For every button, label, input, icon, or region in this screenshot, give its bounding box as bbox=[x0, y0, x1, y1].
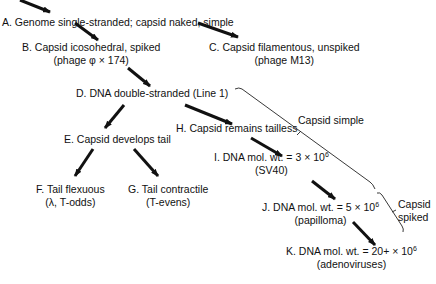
node-c: C. Capsid filamentous, unspiked (phage M… bbox=[209, 41, 360, 67]
node-g: G. Tail contractile (T-evens) bbox=[128, 183, 208, 209]
arrow-d-e bbox=[105, 105, 124, 128]
arrow-e-f bbox=[75, 149, 93, 176]
arrow-e-g bbox=[134, 149, 158, 176]
arrow-entry-a bbox=[20, 0, 50, 12]
node-i: I. DNA mol. wt. = 3 × 106 (SV40) bbox=[214, 151, 329, 177]
node-h: H. Capsid remains tailless bbox=[176, 122, 297, 135]
node-e: E. Capsid develops tail bbox=[64, 133, 171, 146]
bracket-tick-simple bbox=[297, 131, 301, 135]
node-j: J. DNA mol. wt. = 5 × 106 (papilloma) bbox=[262, 201, 379, 227]
node-d: D. DNA double-stranded (Line 1) bbox=[76, 87, 228, 100]
arrow-b-d bbox=[128, 68, 150, 86]
bracket-label-capsid-spiked: Capsid spiked bbox=[398, 198, 431, 224]
node-k: K. DNA mol. wt. = 20+ × 106 (adenoviruse… bbox=[286, 245, 417, 271]
node-a: A. Genome single-stranded; capsid naked,… bbox=[2, 16, 234, 29]
node-f: F. Tail flexuous (λ, T-odds) bbox=[36, 183, 105, 209]
arrow-i-j bbox=[312, 181, 335, 199]
bracket-label-capsid-simple: Capsid simple bbox=[298, 114, 364, 127]
node-b: B. Capsid icosohedral, spiked (phage φ ×… bbox=[22, 41, 160, 67]
